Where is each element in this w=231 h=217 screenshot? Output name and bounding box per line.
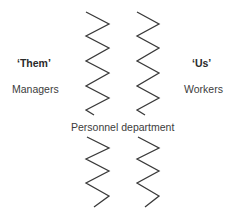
zigzag-dividers (0, 0, 231, 217)
right-zigzag-bottom (137, 137, 159, 207)
personnel-department-label: Personnel department (71, 121, 174, 133)
left-zigzag-top (86, 12, 109, 115)
right-zigzag-top (137, 12, 159, 115)
them-us-diagram: ‘Them’ Managers ‘Us’ Workers Personnel d… (0, 0, 231, 217)
workers-label: Workers (184, 83, 223, 95)
managers-label: Managers (12, 83, 59, 95)
us-label: ‘Us’ (192, 57, 211, 69)
them-label: ‘Them’ (17, 57, 51, 69)
left-zigzag-bottom (86, 137, 109, 207)
